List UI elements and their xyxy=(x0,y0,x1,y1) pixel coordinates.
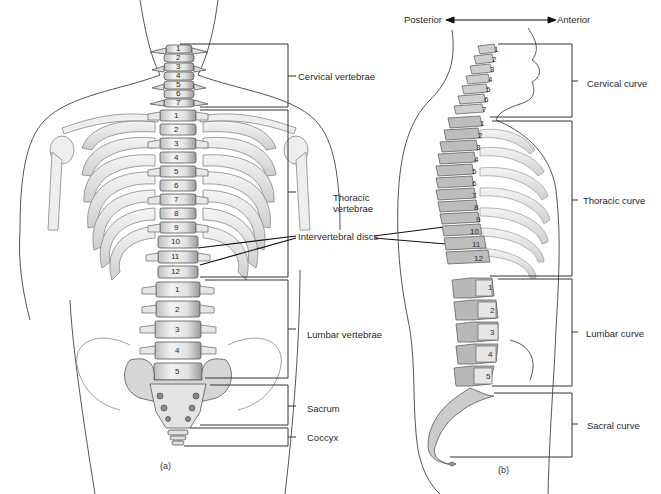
b-t6-number: 6 xyxy=(472,178,476,189)
l4-number: 4 xyxy=(175,345,179,356)
label-lumbar-curve: Lumbar curve xyxy=(586,328,644,339)
label-thoracic-curve: Thoracic curve xyxy=(583,195,645,206)
b-t10-number: 10 xyxy=(470,226,479,237)
orientation-arrow xyxy=(446,17,556,23)
t7-number: 7 xyxy=(174,194,178,205)
posterior-label: Posterior xyxy=(404,14,442,25)
t5-number: 5 xyxy=(174,166,178,177)
b-c7-number: 7 xyxy=(482,104,486,115)
b-t3-number: 3 xyxy=(476,142,480,153)
t6-number: 6 xyxy=(174,180,178,191)
l1-number: 1 xyxy=(175,284,179,295)
b-l5-number: 5 xyxy=(486,371,490,382)
t3-number: 3 xyxy=(174,138,178,149)
b-l2-number: 2 xyxy=(490,305,494,316)
label-sacrum: Sacrum xyxy=(307,403,340,414)
b-t8-number: 8 xyxy=(474,202,478,213)
l5-number: 5 xyxy=(175,366,179,377)
t10-number: 10 xyxy=(171,236,180,247)
c7-number: 7 xyxy=(176,97,180,108)
label-thoracic-vertebrae-line1: Thoracic xyxy=(333,192,369,203)
t11-number: 11 xyxy=(171,251,179,262)
t9-number: 9 xyxy=(174,222,178,233)
b-t9-number: 9 xyxy=(476,214,480,225)
b-t7-number: 7 xyxy=(472,190,476,201)
label-sacral-curve: Sacral curve xyxy=(587,420,640,431)
b-l3-number: 3 xyxy=(490,327,494,338)
b-t11-number: 11 xyxy=(472,239,480,250)
panel-a-coccyx xyxy=(168,430,188,445)
t4-number: 4 xyxy=(174,152,178,163)
label-cervical-vertebrae: Cervical vertebrae xyxy=(298,71,375,82)
b-t12-number: 12 xyxy=(474,253,483,264)
panel-b-caption: (b) xyxy=(498,465,509,475)
b-t4-number: 4 xyxy=(474,154,478,165)
b-l4-number: 4 xyxy=(488,349,492,360)
spine-figure: 1 2 3 4 5 6 7 1 2 3 4 5 6 7 8 9 10 11 12… xyxy=(0,0,661,494)
t12-number: 12 xyxy=(171,266,180,277)
b-l1-number: 1 xyxy=(488,282,492,293)
label-cervical-curve: Cervical curve xyxy=(587,78,647,89)
t1-number: 1 xyxy=(174,110,178,121)
label-intervertebral-discs: Intervertebral discs xyxy=(298,231,378,242)
l3-number: 3 xyxy=(175,324,179,335)
panel-a-caption: (a) xyxy=(160,461,171,471)
anterior-label: Anterior xyxy=(557,14,590,25)
label-coccyx: Coccyx xyxy=(307,432,338,443)
b-t5-number: 5 xyxy=(472,166,476,177)
t8-number: 8 xyxy=(174,208,178,219)
label-lumbar-vertebrae: Lumbar vertebrae xyxy=(307,329,382,340)
l2-number: 2 xyxy=(175,304,179,315)
panel-b-sacrum-coccyx xyxy=(428,388,494,466)
label-thoracic-vertebrae-line2: vertebrae xyxy=(333,203,373,214)
t2-number: 2 xyxy=(174,124,178,135)
b-t1-number: 1 xyxy=(480,118,484,129)
b-t2-number: 2 xyxy=(478,130,482,141)
